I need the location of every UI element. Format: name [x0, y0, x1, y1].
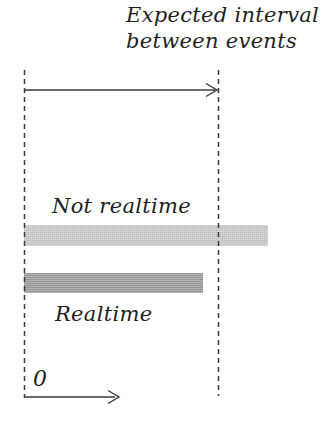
not-realtime-label: Not realtime	[52, 194, 191, 218]
interval-arrow	[25, 84, 217, 97]
realtime-bar	[24, 273, 203, 293]
interval-arrowhead-icon	[206, 84, 217, 97]
expected-interval-diagram: Expected interval between events Not rea…	[0, 0, 332, 424]
realtime-label: Realtime	[55, 302, 152, 326]
title-line-2: between events	[126, 28, 319, 54]
diagram-title: Expected interval between events	[126, 2, 319, 54]
time-axis-arrowhead-icon	[108, 391, 119, 404]
time-axis-arrow	[25, 391, 119, 404]
not-realtime-bar	[24, 225, 268, 246]
origin-zero-label: 0	[33, 366, 47, 391]
title-line-1: Expected interval	[126, 2, 319, 28]
